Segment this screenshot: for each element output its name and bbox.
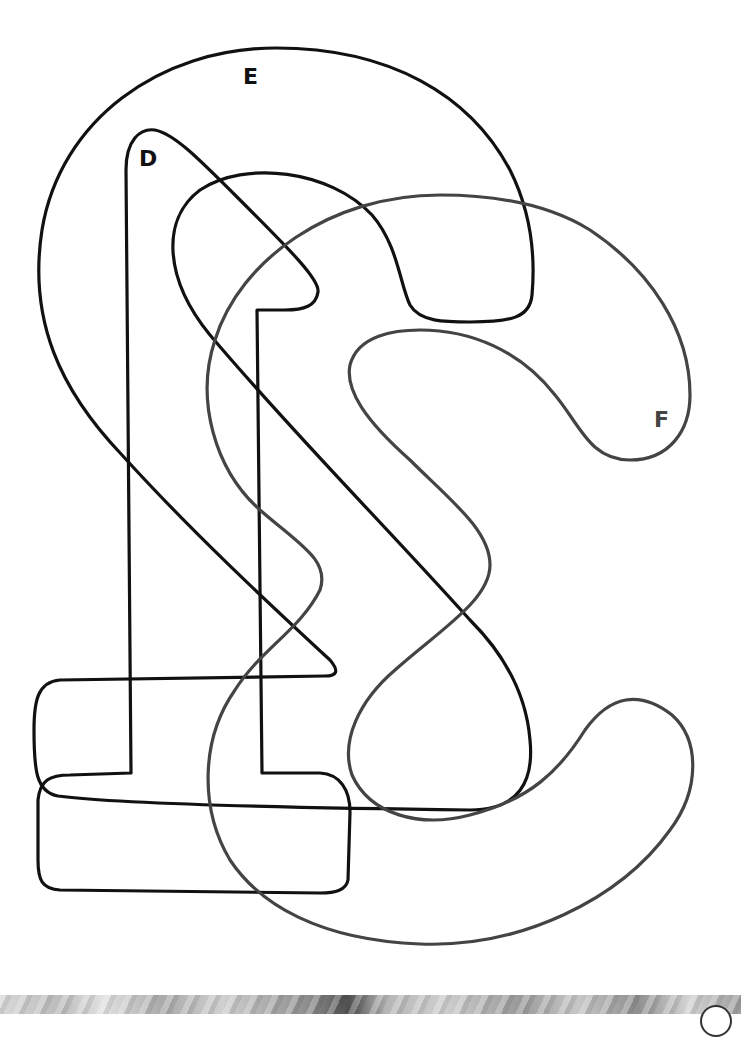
label-d: D — [139, 146, 157, 171]
corner-circle-icon — [700, 1005, 732, 1037]
shape-e-outline — [34, 48, 533, 810]
shape-f-outline — [207, 195, 693, 944]
decorative-texture-strip — [0, 995, 741, 1014]
shape-d-outline — [38, 130, 350, 893]
label-f: F — [654, 407, 669, 432]
label-e: E — [243, 64, 258, 89]
